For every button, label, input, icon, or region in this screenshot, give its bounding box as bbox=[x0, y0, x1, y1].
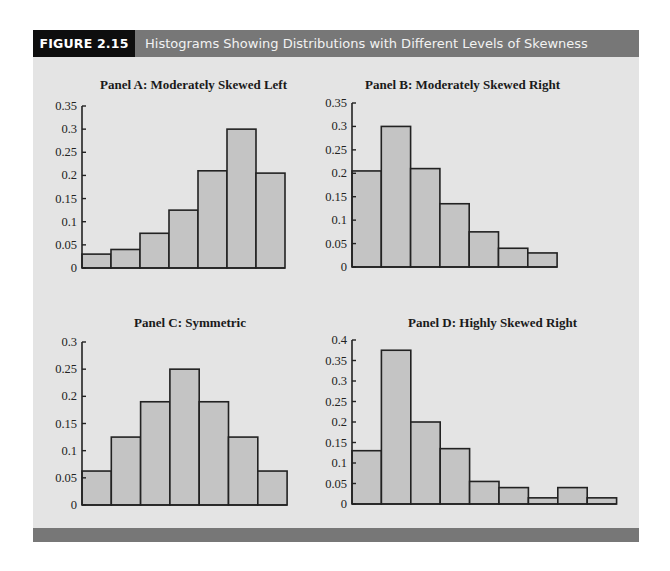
y-tick-label: 0.2 bbox=[331, 415, 347, 429]
y-tick-label: 0.1 bbox=[61, 215, 77, 229]
y-tick-label: 0.25 bbox=[55, 362, 77, 376]
y-tick-label: 0.3 bbox=[61, 122, 77, 136]
histogram-bar bbox=[440, 204, 469, 267]
y-tick-label: 0.05 bbox=[55, 471, 77, 485]
y-tick-label: 0 bbox=[341, 497, 347, 511]
histogram-bar bbox=[256, 173, 285, 268]
histogram-bar bbox=[499, 248, 528, 267]
y-tick-label: 0.3 bbox=[331, 374, 347, 388]
histogram-bar bbox=[82, 254, 111, 268]
y-tick-label: 0.2 bbox=[61, 389, 77, 403]
histogram-bar bbox=[199, 402, 228, 505]
histogram-bar bbox=[198, 171, 227, 268]
panel-b-chart: 00.050.10.150.20.250.30.35 bbox=[325, 96, 557, 274]
histogram-bar bbox=[169, 210, 198, 268]
y-tick-label: 0.05 bbox=[325, 477, 347, 491]
y-tick-label: 0.35 bbox=[325, 354, 347, 368]
histogram-bar bbox=[352, 451, 381, 504]
y-tick-label: 0.15 bbox=[325, 190, 347, 204]
y-tick-label: 0 bbox=[71, 498, 77, 512]
y-tick-label: 0.25 bbox=[325, 395, 347, 409]
y-tick-label: 0.35 bbox=[325, 96, 347, 110]
histogram-bar bbox=[352, 171, 381, 267]
y-tick-label: 0.15 bbox=[55, 417, 77, 431]
histogram-bar bbox=[469, 232, 498, 267]
y-tick-label: 0.1 bbox=[331, 456, 347, 470]
y-tick-label: 0 bbox=[71, 261, 77, 275]
histogram-bar bbox=[141, 402, 170, 505]
histogram-bar bbox=[587, 498, 616, 504]
histogram-bar bbox=[82, 471, 111, 505]
histogram-bar bbox=[111, 437, 140, 505]
histogram-bar bbox=[227, 129, 256, 268]
histogram-bar bbox=[229, 437, 258, 505]
histogram-bar bbox=[111, 249, 140, 268]
histogram-bar bbox=[470, 481, 499, 504]
y-tick-label: 0.3 bbox=[331, 119, 347, 133]
y-tick-label: 0.15 bbox=[55, 192, 77, 206]
histogram-bar bbox=[528, 253, 557, 267]
y-tick-label: 0.2 bbox=[61, 168, 77, 182]
histogram-bar bbox=[440, 449, 469, 504]
y-tick-label: 0.3 bbox=[61, 335, 77, 349]
panel-d-chart: 00.050.10.150.20.250.30.350.4 bbox=[325, 333, 616, 511]
y-tick-label: 0.15 bbox=[325, 436, 347, 450]
histogram-bar bbox=[528, 498, 557, 504]
histogram-bar bbox=[499, 488, 528, 504]
histogram-bar bbox=[170, 369, 199, 505]
y-tick-label: 0.1 bbox=[61, 444, 77, 458]
y-tick-label: 0.25 bbox=[55, 145, 77, 159]
histogram-bar bbox=[411, 169, 440, 267]
histogram-bar bbox=[558, 488, 587, 504]
y-tick-label: 0.2 bbox=[331, 166, 347, 180]
histogram-bar bbox=[140, 233, 169, 268]
y-tick-label: 0.35 bbox=[55, 99, 77, 113]
y-tick-label: 0.25 bbox=[325, 143, 347, 157]
histogram-panels: 00.050.10.150.20.250.30.35 00.050.10.150… bbox=[0, 0, 670, 571]
panel-a-chart: 00.050.10.150.20.250.30.35 bbox=[55, 99, 285, 275]
y-tick-label: 0.1 bbox=[331, 213, 347, 227]
y-tick-label: 0.05 bbox=[55, 238, 77, 252]
y-tick-label: 0.05 bbox=[325, 237, 347, 251]
histogram-bar bbox=[381, 126, 410, 267]
histogram-bar bbox=[411, 422, 440, 504]
histogram-bar bbox=[381, 350, 410, 504]
histogram-bar bbox=[258, 471, 287, 505]
y-tick-label: 0.4 bbox=[331, 333, 347, 347]
panel-c-chart: 00.050.10.150.20.250.3 bbox=[55, 335, 287, 512]
y-tick-label: 0 bbox=[341, 260, 347, 274]
